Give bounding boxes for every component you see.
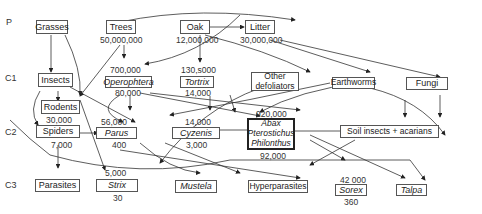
level-p: P bbox=[6, 17, 12, 27]
node-rodents: Rodents bbox=[41, 100, 80, 114]
node-spiders: Spiders bbox=[36, 125, 80, 138]
node-soil-insects-acarians: Soil insects + acarians bbox=[340, 125, 439, 138]
rodents-count: 30,000 bbox=[46, 115, 72, 125]
carabids-bottom-count: 92,000 bbox=[260, 151, 286, 161]
node-parasites: Parasites bbox=[35, 179, 80, 192]
node-hyperparasites: Hyperparasites bbox=[248, 180, 308, 193]
node-litter: Litter bbox=[245, 20, 275, 34]
node-talpa: Talpa bbox=[396, 184, 427, 196]
level-c2: C2 bbox=[5, 127, 17, 137]
node-mustela: Mustela bbox=[175, 180, 217, 193]
node-trees: Trees bbox=[106, 20, 136, 34]
parus-top-count: 56,000 bbox=[101, 117, 127, 127]
node-fungi: Fungi bbox=[406, 77, 448, 90]
cyzenis-bottom-count: 3,000 bbox=[186, 140, 207, 150]
node-other-defoliators: Otherdefoliators bbox=[251, 72, 299, 91]
node-parus: Parus bbox=[96, 127, 137, 139]
strix-bottom-count: 30 bbox=[113, 193, 122, 203]
sorex-bottom-count: 360 bbox=[344, 197, 358, 207]
node-sorex: Sorex bbox=[335, 184, 367, 196]
node-insects: Insects bbox=[38, 73, 73, 87]
node-carabids: AbaxPterostichusPhilonthus bbox=[247, 118, 295, 150]
operophtera-top-count: 700,000 bbox=[110, 65, 141, 75]
litter-count: 30,000,000 bbox=[240, 35, 283, 45]
node-earthworms: Earthworms bbox=[332, 77, 375, 89]
operophtera-bottom-count: 80,000 bbox=[115, 88, 141, 98]
node-operophtera: Operophtera bbox=[105, 76, 152, 88]
node-grasses: Grasses bbox=[36, 20, 68, 34]
trees-count: 50,000,000 bbox=[100, 35, 143, 45]
node-cyzenis: Cyzenis bbox=[172, 127, 220, 139]
cyzenis-top-count: 14,000 bbox=[185, 117, 211, 127]
parus-bottom-count: 400 bbox=[112, 140, 126, 150]
strix-top-count: 5,000 bbox=[105, 168, 126, 178]
level-c1: C1 bbox=[5, 73, 17, 83]
oak-count: 12,000,000 bbox=[176, 35, 219, 45]
node-tortrix: Tortrix bbox=[180, 76, 214, 88]
node-strix: Strix bbox=[96, 179, 138, 192]
tortrix-top-count: 130,s000 bbox=[181, 65, 216, 75]
spiders-count: 7,000 bbox=[51, 140, 72, 150]
tortrix-bottom-count: 14,000 bbox=[185, 88, 211, 98]
node-oak: Oak bbox=[180, 20, 210, 34]
level-c3: C3 bbox=[5, 180, 17, 190]
